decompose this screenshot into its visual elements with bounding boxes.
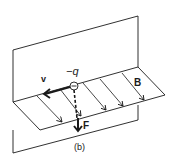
charge-label: −q: [66, 66, 79, 77]
projection-dashed-line: [74, 90, 77, 118]
figure-caption: (b): [74, 143, 85, 152]
field-label: B: [134, 78, 141, 88]
force-on-charge-diagram: [0, 0, 170, 165]
diagram-canvas: −q v B F (b): [0, 0, 170, 165]
velocity-label: v: [41, 75, 46, 84]
negative-charge: [70, 82, 78, 90]
force-label: F: [83, 121, 89, 131]
